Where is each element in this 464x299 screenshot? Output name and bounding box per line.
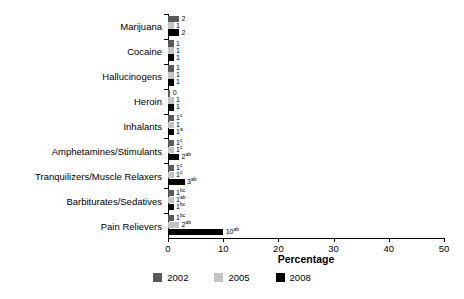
bar-group: 011 (168, 90, 444, 112)
bar[interactable] (168, 179, 185, 185)
bar-value-label: 10ab (226, 228, 239, 236)
category-label: Cocaine (127, 46, 162, 57)
chart-legend: 200220052008 (0, 272, 464, 283)
chart-category-row: Heroin011 (168, 89, 444, 114)
legend-swatch (214, 273, 223, 282)
bar[interactable] (168, 72, 174, 78)
bar-slot: 2 (168, 16, 444, 22)
bar-slot: 1c (168, 172, 444, 178)
bar[interactable] (168, 190, 174, 196)
bar-slot: 2ab (168, 222, 444, 228)
bar-slot: 1bc (168, 190, 444, 196)
bar-slot: 1 (168, 79, 444, 85)
bar[interactable] (168, 22, 174, 28)
legend-item[interactable]: 2008 (276, 272, 311, 283)
legend-label: 2005 (228, 272, 249, 283)
bar[interactable] (168, 47, 174, 53)
bar[interactable] (168, 122, 174, 128)
bar[interactable] (168, 29, 179, 35)
chart-category-row: Marijuana212 (168, 14, 444, 39)
bar-value-label: 3ab (187, 178, 196, 186)
bar-value-label: 1 (176, 103, 180, 111)
x-axis-tick (389, 238, 390, 242)
bar-value-label: 1a (176, 128, 183, 136)
category-label: Amphetamines/Stimulants (52, 145, 162, 156)
bar-slot: 1c (168, 147, 444, 153)
bar-value-label: 1c (176, 171, 182, 179)
bar[interactable] (168, 154, 179, 160)
bar-group: 111 (168, 40, 444, 62)
bar-group: 1bc2ab10ab (168, 215, 444, 237)
bar-group: 212 (168, 16, 444, 38)
bar[interactable] (168, 172, 174, 178)
category-label: Heroin (134, 96, 162, 107)
bar[interactable] (168, 90, 170, 96)
bar-slot: 1 (168, 22, 444, 28)
bar[interactable] (168, 40, 174, 46)
bar-slot: 1c (168, 165, 444, 171)
x-axis-tick (278, 238, 279, 242)
bar-slot: 1 (168, 54, 444, 60)
bar-value-label: 2ab (182, 221, 191, 229)
bar[interactable] (168, 115, 174, 121)
bar[interactable] (168, 165, 174, 171)
bar[interactable] (168, 97, 174, 103)
bar-slot: 2ab (168, 154, 444, 160)
bar-slot: 1c (168, 140, 444, 146)
bar[interactable] (168, 54, 174, 60)
legend-item[interactable]: 2005 (214, 272, 249, 283)
bar-slot: 1 (168, 40, 444, 46)
bar-group: 1c11a (168, 115, 444, 137)
bar-slot: 1c (168, 115, 444, 121)
bar[interactable] (168, 147, 174, 153)
bar-slot: 2 (168, 29, 444, 35)
legend-swatch (276, 273, 285, 282)
bar-group: 1c1c2ab (168, 140, 444, 162)
legend-swatch (153, 273, 162, 282)
bar-group: 111 (168, 65, 444, 87)
x-axis-tick (223, 238, 224, 242)
bar[interactable] (168, 140, 174, 146)
chart-category-row: Pain Relievers1bc2ab10ab (168, 213, 444, 238)
bar-group: 1c1c3ab (168, 165, 444, 187)
bar-value-label: 1 (176, 22, 180, 30)
bar[interactable] (168, 222, 179, 228)
bar-chart: Marijuana212Cocaine111Hallucinogens111He… (0, 0, 464, 299)
bar-slot: 10ab (168, 229, 444, 235)
x-axis-title: Percentage (168, 253, 444, 265)
bar[interactable] (168, 65, 174, 71)
category-label: Hallucinogens (102, 71, 162, 82)
bar[interactable] (168, 229, 223, 235)
bar[interactable] (168, 129, 174, 135)
bar-group: 1bc1ab1bc (168, 190, 444, 212)
bar-value-label: 2 (182, 29, 186, 37)
bar-slot: 1bc (168, 204, 444, 210)
bar-slot: 1 (168, 65, 444, 71)
bar-slot: 1 (168, 104, 444, 110)
bar[interactable] (168, 104, 174, 110)
bar-value-label: 2 (182, 15, 186, 23)
category-label: Barbiturates/Sedatives (66, 195, 162, 206)
bar[interactable] (168, 204, 174, 210)
x-axis-tick (168, 238, 169, 242)
bar-slot: 1 (168, 72, 444, 78)
bar[interactable] (168, 79, 174, 85)
chart-category-row: Barbiturates/Sedatives1bc1ab1bc (168, 188, 444, 213)
bar-slot: 1bc (168, 215, 444, 221)
legend-item[interactable]: 2002 (153, 272, 188, 283)
x-axis-tick (444, 238, 445, 242)
category-label: Marijuana (120, 21, 162, 32)
bar-value-label: 1bc (176, 203, 185, 211)
category-label: Tranquilizers/Muscle Relaxers (35, 170, 162, 181)
category-label: Pain Relievers (101, 220, 162, 231)
chart-category-row: Inhalants1c11a (168, 114, 444, 139)
chart-category-row: Amphetamines/Stimulants1c1c2ab (168, 138, 444, 163)
bar[interactable] (168, 197, 174, 203)
bar-value-label: 2ab (182, 153, 191, 161)
bar-slot: 1a (168, 129, 444, 135)
bar-value-label: 1 (176, 78, 180, 86)
x-axis-tick (334, 238, 335, 242)
bar-value-label: 1 (176, 54, 180, 62)
bar[interactable] (168, 215, 174, 221)
legend-label: 2002 (167, 272, 188, 283)
